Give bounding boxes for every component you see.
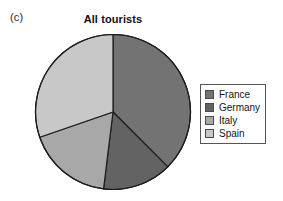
legend-swatch-italy: [205, 116, 214, 125]
pie-slice-group: [35, 34, 190, 189]
legend-label-france: France: [219, 89, 250, 100]
legend-swatch-spain: [205, 129, 214, 138]
pie-chart: [34, 33, 192, 191]
chart-legend: France Germany Italy Spain: [200, 84, 266, 144]
legend-item-france[interactable]: France: [205, 88, 260, 101]
legend-swatch-france: [205, 90, 214, 99]
legend-item-italy[interactable]: Italy: [205, 114, 260, 127]
legend-item-spain[interactable]: Spain: [205, 127, 260, 140]
pie-chart-svg: [34, 33, 192, 191]
legend-label-spain: Spain: [219, 128, 245, 139]
figure-panel: (c) All tourists France Germany Italy Sp…: [0, 0, 283, 201]
legend-swatch-germany: [205, 103, 214, 112]
legend-label-italy: Italy: [219, 115, 237, 126]
chart-title: All tourists: [0, 13, 226, 25]
legend-label-germany: Germany: [219, 102, 260, 113]
legend-item-germany[interactable]: Germany: [205, 101, 260, 114]
